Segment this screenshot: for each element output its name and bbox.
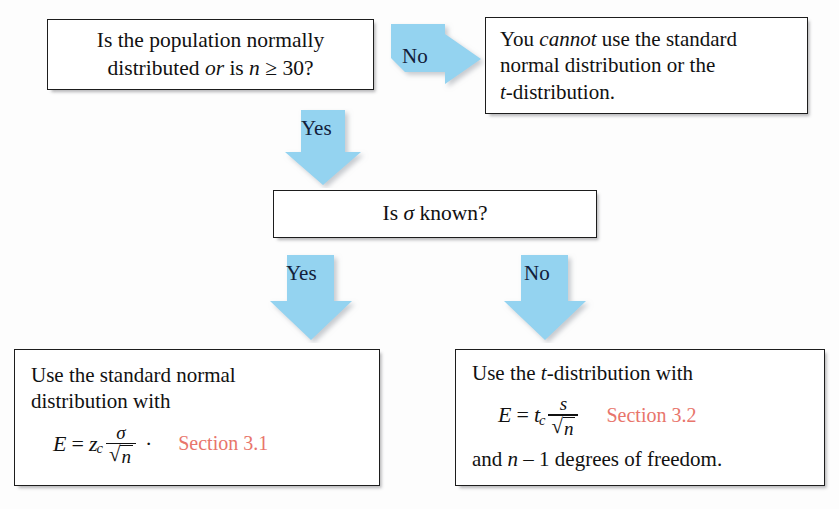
decision-box-population-normal: Is the population normally distributed o… xyxy=(47,19,374,90)
formula-z-numerator: σ xyxy=(112,423,129,443)
arrow-no-to-cannot: No xyxy=(389,22,485,96)
sigma-symbol: σ xyxy=(403,201,414,225)
arrow-yes-to-standard-normal: Yes xyxy=(268,253,362,343)
formula-t-radical: √n xyxy=(551,417,575,440)
formula-t-coef-subscript: c xyxy=(539,412,545,429)
formula-z-radical: √n xyxy=(109,445,133,468)
radical-sign-z: √ xyxy=(109,444,121,465)
outcome-box-z-line2: distribution with xyxy=(31,388,170,414)
outcome-box-z-line1: Use the standard normal xyxy=(31,362,236,388)
formula-z-fraction: σ √n xyxy=(106,423,136,468)
decision-box-sigma-known: Is σ known? xyxy=(273,190,597,238)
text-is: is xyxy=(224,56,249,80)
decision-box-population-normal-line1: Is the population normally xyxy=(97,27,325,54)
outcome-box-use-standard-normal: Use the standard normal distribution wit… xyxy=(14,349,380,486)
decision-box-sigma-known-text: Is σ known? xyxy=(383,200,488,227)
text-distributed: distributed xyxy=(108,56,205,80)
text-known-suffix: known? xyxy=(414,201,487,225)
text-n-italic-df: n xyxy=(508,447,519,471)
text-distribution-cannot: -distribution. xyxy=(506,80,615,104)
formula-margin-of-error-z: E = zc σ √n · xyxy=(53,421,152,466)
formula-t-numerator: s xyxy=(556,394,571,414)
formula-t-lhs: E xyxy=(498,402,511,428)
text-you: You xyxy=(500,27,539,51)
formula-z-equals: = xyxy=(71,431,83,457)
text-ge-30: ≥ 30? xyxy=(260,56,314,80)
formula-t-equals: = xyxy=(516,402,528,428)
formula-t-fraction: s √n xyxy=(548,394,578,439)
formula-margin-of-error-t: E = tc s √n xyxy=(498,392,580,437)
formula-row-z: E = zc σ √n · Section 3.1 xyxy=(31,421,268,466)
text-n-italic: n xyxy=(249,56,260,80)
radical-sign-t: √ xyxy=(551,416,563,437)
text-or-italic: or xyxy=(205,56,224,80)
formula-z-denominator: √n xyxy=(109,444,133,468)
arrow-yes-to-sigma-question: Yes xyxy=(283,108,371,188)
formula-z-coef-subscript: c xyxy=(96,440,102,457)
text-is-prefix: Is xyxy=(383,201,404,225)
arrow-no-to-t-distribution: No xyxy=(502,253,596,343)
text-use-the: Use the xyxy=(472,361,541,385)
text-cannot-italic: cannot xyxy=(539,27,596,51)
outcome-box-cannot-use-line1: You cannot use the standard xyxy=(500,26,737,52)
outcome-box-use-t-distribution: Use the t-distribution with E = tc s √n … xyxy=(455,349,825,486)
formula-z-trailing-operator: · xyxy=(145,431,152,457)
outcome-box-cannot-use-line3: t-distribution. xyxy=(500,79,615,105)
formula-z-radicand: n xyxy=(120,445,133,468)
formula-t-radicand: n xyxy=(563,417,576,440)
text-distribution-with: -distribution with xyxy=(547,361,693,385)
section-reference-3-1: Section 3.1 xyxy=(178,432,268,455)
decision-box-population-normal-line2: distributed or is n ≥ 30? xyxy=(108,55,314,82)
text-use-standard: use the standard xyxy=(596,27,737,51)
formula-row-t: E = tc s √n Section 3.2 xyxy=(472,392,696,437)
formula-t-denominator: √n xyxy=(551,416,575,440)
text-degrees-of-freedom: – 1 degrees of freedom. xyxy=(518,447,722,471)
outcome-box-cannot-use-line2: normal distribution or the xyxy=(500,52,715,78)
flowchart-canvas: Is the population normally distributed o… xyxy=(0,0,839,509)
text-and: and xyxy=(472,447,508,471)
formula-z-lhs: E xyxy=(53,431,66,457)
outcome-box-t-line1: Use the t-distribution with xyxy=(472,360,693,386)
outcome-box-t-line3: and n – 1 degrees of freedom. xyxy=(472,446,722,472)
outcome-box-cannot-use: You cannot use the standard normal distr… xyxy=(485,17,808,114)
section-reference-3-2: Section 3.2 xyxy=(606,404,696,427)
